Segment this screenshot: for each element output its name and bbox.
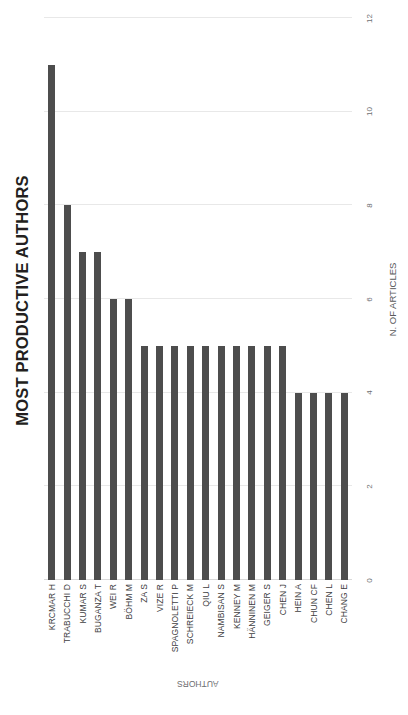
value-tick-4: 4 (358, 386, 380, 400)
category-label-text: SPAGNOLETTI P (170, 584, 180, 652)
category-label: KUMAR S (76, 582, 90, 678)
category-label: SPAGNOLETTI P (168, 582, 182, 678)
plot-area (44, 18, 352, 580)
bar[interactable] (187, 346, 194, 580)
category-label-text: CHEN J (278, 584, 288, 615)
category-label: TRABUCCHI D (60, 582, 74, 678)
value-tick-label: 10 (365, 107, 374, 116)
category-axis-title-text: AUTHORS (177, 679, 219, 689)
category-label-text: CHEN L (324, 584, 334, 616)
bar[interactable] (264, 346, 271, 580)
category-label-text: HEIN A (293, 584, 303, 612)
value-tick-12: 12 (358, 11, 380, 25)
category-label-text: BÖHM M (124, 584, 134, 620)
value-tick-8: 8 (358, 198, 380, 212)
value-axis: 024681012 N. OF ARTICLES (352, 18, 408, 580)
category-label-text: KUMAR S (78, 584, 88, 623)
category-label: KRCMAR H (45, 582, 59, 678)
value-tick-label: 0 (364, 578, 373, 582)
bar[interactable] (233, 346, 240, 580)
category-label: QIU L (199, 582, 213, 678)
bar[interactable] (202, 346, 209, 580)
category-label: BUGANZA T (91, 582, 105, 678)
category-label-text: KRCMAR H (47, 584, 57, 630)
category-label: KENNEY M (230, 582, 244, 678)
category-label: NAMBISAN S (214, 582, 228, 678)
category-label-text: CHANG E (339, 584, 349, 623)
value-tick-6: 6 (358, 292, 380, 306)
category-label-text: HÄNNINEN M (247, 584, 257, 639)
bar[interactable] (79, 252, 86, 580)
bar[interactable] (141, 346, 148, 580)
bar[interactable] (48, 65, 55, 580)
category-axis: KRCMAR HTRABUCCHI DKUMAR SBUGANZA TWEI R… (44, 582, 352, 682)
bar[interactable] (310, 393, 317, 580)
value-axis-title-text: N. OF ARTICLES (388, 262, 399, 336)
category-label: WEI R (106, 582, 120, 678)
category-label: VIZE R (153, 582, 167, 678)
category-label-text: VIZE R (155, 584, 165, 612)
value-tick-10: 10 (358, 105, 380, 119)
value-tick-label: 6 (364, 297, 373, 301)
bar[interactable] (218, 346, 225, 580)
bar[interactable] (341, 393, 348, 580)
category-label-text: ZA S (139, 584, 149, 603)
value-axis-title: N. OF ARTICLES (378, 18, 408, 580)
bar[interactable] (156, 346, 163, 580)
category-label-text: CHUN CF (309, 584, 319, 623)
bar[interactable] (325, 393, 332, 580)
category-axis-title: AUTHORS (44, 676, 352, 692)
value-tick-label: 12 (365, 14, 374, 23)
category-label-text: BUGANZA T (93, 584, 103, 633)
bar-series (44, 18, 352, 580)
bar[interactable] (295, 393, 302, 580)
category-label: GEIGER S (260, 582, 274, 678)
chart-title: MOST PRODUCTIVE AUTHORS (0, 0, 44, 600)
category-label: CHEN L (322, 582, 336, 678)
category-label: HEIN A (291, 582, 305, 678)
category-label: CHEN J (276, 582, 290, 678)
category-label: CHUN CF (307, 582, 321, 678)
category-label-text: KENNEY M (232, 584, 242, 629)
value-tick-2: 2 (358, 479, 380, 493)
bar[interactable] (171, 346, 178, 580)
bar[interactable] (110, 299, 117, 580)
chart-page: MOST PRODUCTIVE AUTHORS 024681012 N. OF … (0, 0, 408, 715)
category-label: SCHREIECK M (183, 582, 197, 678)
bar[interactable] (94, 252, 101, 580)
value-tick-label: 4 (364, 390, 373, 394)
bar[interactable] (125, 299, 132, 580)
value-tick-0: 0 (358, 573, 380, 587)
category-label: BÖHM M (122, 582, 136, 678)
value-tick-label: 8 (364, 203, 373, 207)
category-label: ZA S (137, 582, 151, 678)
category-label-text: QIU L (201, 584, 211, 607)
value-tick-label: 2 (364, 484, 373, 488)
category-label-text: TRABUCCHI D (62, 584, 72, 643)
category-label-text: NAMBISAN S (216, 584, 226, 637)
category-label-text: SCHREIECK M (185, 584, 195, 644)
category-label-text: GEIGER S (262, 584, 272, 626)
category-label-text: WEI R (108, 584, 118, 609)
bar[interactable] (248, 346, 255, 580)
category-label: HÄNNINEN M (245, 582, 259, 678)
chart-title-text: MOST PRODUCTIVE AUTHORS (13, 175, 32, 426)
category-label: CHANG E (337, 582, 351, 678)
bar[interactable] (279, 346, 286, 580)
bar[interactable] (64, 205, 71, 580)
